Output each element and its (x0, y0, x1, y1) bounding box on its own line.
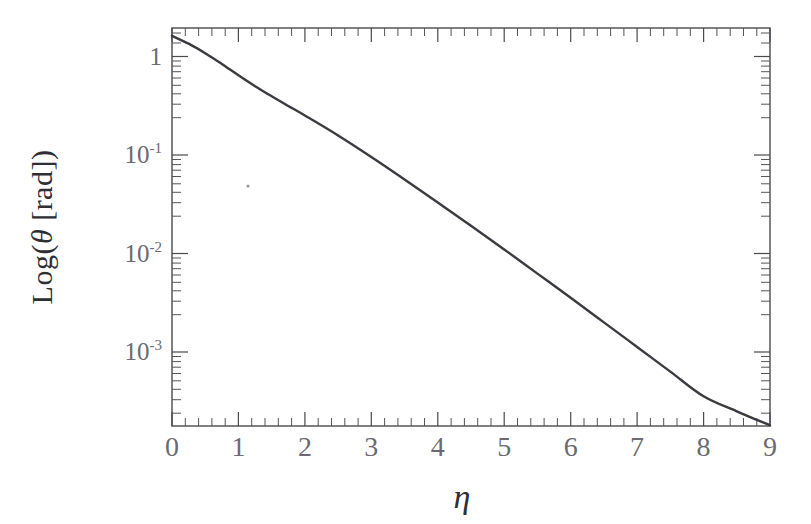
figure-canvas: 0 1 2 3 4 5 6 7 8 9 1 10-1 10-2 10-3 (0, 0, 811, 524)
data-series-theta (172, 36, 770, 426)
y-axis-ticks-left (172, 33, 188, 413)
y-tick-mantissa-2: 10 (125, 240, 150, 267)
y-tick-exponent-1: -1 (150, 140, 163, 156)
x-tick-label-1: 1 (231, 431, 245, 462)
y-tick-label-1: 1 (150, 43, 163, 70)
y-tick-label-1e-2: 10-2 (125, 239, 163, 267)
x-axis-title: η (454, 478, 471, 515)
x-tick-label-9: 9 (763, 431, 777, 462)
x-axis-ticks-top (172, 28, 770, 42)
x-tick-label-3: 3 (364, 431, 378, 462)
y-axis-title-prefix: Log( (25, 244, 59, 304)
y-tick-mantissa-0: 1 (150, 43, 163, 70)
y-tick-exponent-3: -3 (150, 337, 163, 353)
y-tick-label-1e-3: 10-3 (125, 337, 163, 365)
x-tick-label-2: 2 (298, 431, 312, 462)
scan-speck-artifact (246, 184, 249, 187)
y-tick-exponent-2: -2 (150, 239, 163, 255)
y-axis-title-unit: [rad]) (25, 150, 59, 229)
x-tick-label-8: 8 (697, 431, 711, 462)
x-tick-label-7: 7 (630, 431, 644, 462)
y-tick-label-1e-1: 10-1 (125, 140, 163, 168)
y-axis-title: Log(θ [rad]) (25, 150, 59, 305)
x-axis-ticks-bottom (172, 412, 770, 426)
x-tick-label-0: 0 (165, 431, 179, 462)
y-axis-title-symbol: θ (25, 229, 58, 244)
y-tick-label-group: 1 10-1 10-2 10-3 (125, 43, 163, 365)
y-tick-mantissa-1: 10 (125, 141, 150, 168)
x-tick-label-4: 4 (431, 431, 445, 462)
x-tick-label-6: 6 (564, 431, 578, 462)
y-tick-mantissa-3: 10 (125, 338, 150, 365)
y-axis-ticks-right (754, 33, 770, 413)
log-plot-svg: 0 1 2 3 4 5 6 7 8 9 1 10-1 10-2 10-3 (0, 0, 811, 524)
x-tick-label-group: 0 1 2 3 4 5 6 7 8 9 (165, 431, 777, 462)
x-tick-label-5: 5 (497, 431, 511, 462)
